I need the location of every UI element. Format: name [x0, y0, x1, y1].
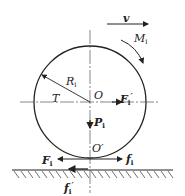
ground-hatching	[14, 171, 173, 178]
ground-reaction-prime: ′	[71, 179, 73, 189]
traction-force-symbol: F	[42, 154, 50, 167]
velocity-label: v	[123, 13, 129, 24]
weight-label: Pi	[94, 117, 105, 129]
inertia-force-label: Fi′	[120, 91, 133, 106]
moment-label: Mi	[134, 33, 148, 46]
center-label: O	[94, 90, 103, 101]
friction-label: fi	[126, 154, 133, 166]
traction-force-subscript: i	[50, 159, 53, 168]
radius-subscript: i	[74, 81, 76, 89]
ground-reaction-label: fi′	[64, 180, 74, 195]
weight-subscript: i	[102, 121, 105, 130]
moment-subscript: i	[145, 38, 147, 46]
wheel-force-diagram: v Mi Ri T O Fi′ Pi O′ Fi fi fi′	[0, 0, 185, 196]
radius-label: Ri	[66, 76, 77, 89]
friction-subscript: i	[131, 158, 134, 167]
contact-point-label: O′	[92, 143, 104, 154]
traction-force-label: Fi	[42, 155, 52, 167]
moment-symbol: M	[134, 32, 145, 45]
torque-label: T	[52, 93, 59, 104]
diagram-canvas	[0, 0, 185, 196]
inertia-force-symbol: F	[120, 93, 128, 106]
inertia-force-prime: ′	[130, 90, 132, 100]
